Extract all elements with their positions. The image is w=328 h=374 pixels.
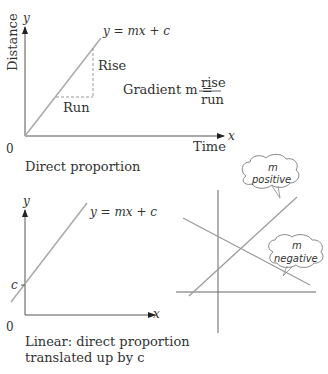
linear-line — [11, 203, 87, 302]
x-axis-var: x — [153, 307, 160, 321]
origin-label: 0 — [6, 320, 14, 334]
positive-callout-m: m — [268, 162, 278, 173]
positive-callout-text: positive — [251, 174, 291, 185]
y-axis-var: y — [22, 11, 30, 25]
y-axis-var: y — [22, 194, 30, 208]
direct-proportion-graph: y Distance x Time 0 y = mx + c Rise Run … — [5, 11, 235, 174]
negative-callout-text: negative — [274, 253, 318, 264]
rise-label: Rise — [98, 58, 127, 73]
x-axis-label: Time — [193, 139, 226, 154]
gradient-sign-graph: m positive m negative — [176, 154, 323, 333]
line-equation: y = mx + c — [89, 205, 157, 219]
origin-label: 0 — [6, 142, 14, 156]
negative-callout: m negative — [269, 235, 323, 276]
caption-linear-line1: Linear: direct proportion — [25, 334, 190, 349]
proportion-line — [25, 38, 101, 136]
linear-graph: y x c 0 y = mx + c Linear: direct propor… — [6, 194, 190, 365]
y-axis-label: Distance — [5, 13, 20, 71]
line-equation: y = mx + c — [102, 24, 170, 38]
intercept-label: c — [11, 278, 18, 292]
gradient-label: Gradient m = — [123, 82, 213, 97]
gradient-denominator: run — [201, 92, 225, 107]
positive-callout: m positive — [242, 154, 299, 198]
caption-direct-proportion: Direct proportion — [25, 159, 141, 174]
diagram-canvas: y Distance x Time 0 y = mx + c Rise Run … — [0, 0, 328, 374]
run-label: Run — [63, 100, 90, 115]
negative-callout-m: m — [292, 240, 302, 251]
x-axis-var: x — [228, 129, 235, 143]
caption-linear-line2: translated up by c — [25, 350, 144, 365]
gradient-numerator: rise — [201, 75, 226, 90]
